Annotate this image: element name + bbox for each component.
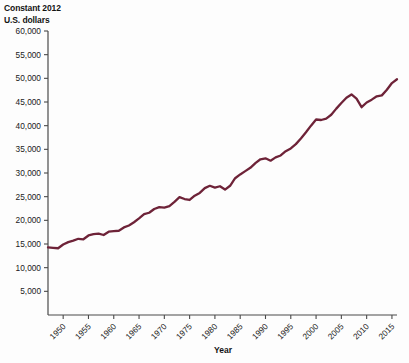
x-tick-label: 1975	[174, 321, 194, 341]
x-axis-title: Year	[200, 345, 246, 355]
x-tick-label: 1950	[47, 321, 67, 341]
x-tick-label: 1965	[123, 321, 143, 341]
x-tick-label: 1985	[224, 321, 244, 341]
x-tick-label: 1955	[73, 321, 93, 341]
x-tick-label: 2005	[326, 321, 346, 341]
y-tick-label: 25,000	[16, 192, 42, 202]
x-tick-label: 1990	[250, 321, 270, 341]
y-tick-label: 15,000	[16, 239, 42, 249]
x-tick-label: 1980	[199, 321, 219, 341]
x-axis-ticks: 1950195519601965197019751980198519901995…	[47, 315, 396, 341]
line-chart-plot: 60,00055,00050,00045,00040,00035,00030,0…	[0, 0, 409, 363]
x-tick-label: 2000	[300, 321, 320, 341]
x-tick-label: 1995	[275, 321, 295, 341]
y-tick-label: 30,000	[16, 168, 42, 178]
x-tick-label: 2015	[376, 321, 396, 341]
y-tick-label: 55,000	[16, 50, 42, 60]
y-tick-label: 50,000	[16, 73, 42, 83]
y-tick-label: 10,000	[16, 263, 42, 273]
y-axis-ticks: 60,00055,00050,00045,00040,00035,00030,0…	[16, 26, 48, 296]
y-tick-label: 60,000	[16, 26, 42, 36]
x-tick-label: 1970	[149, 321, 169, 341]
x-tick-label: 1960	[98, 321, 118, 341]
y-tick-label: 40,000	[16, 121, 42, 131]
y-tick-label: 35,000	[16, 144, 42, 154]
y-tick-label: 5,000	[20, 286, 41, 296]
chart-container: Constant 2012 U.S. dollars 60,00055,0005…	[0, 0, 409, 363]
y-tick-label: 45,000	[16, 97, 42, 107]
data-series-line	[48, 79, 397, 248]
x-tick-label: 2010	[351, 321, 371, 341]
y-tick-label: 20,000	[16, 215, 42, 225]
